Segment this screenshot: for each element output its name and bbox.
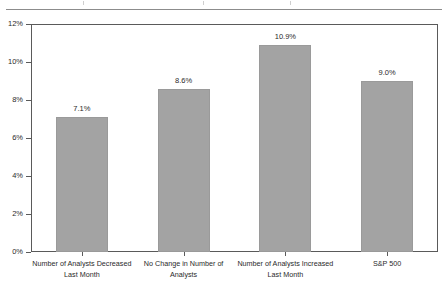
x-axis-category-line: S&P 500	[373, 258, 401, 269]
y-axis-tick-mark	[26, 252, 31, 253]
bar	[56, 117, 108, 252]
x-axis-category-line: Last Month	[237, 269, 333, 280]
x-axis-category-label: S&P 500	[373, 258, 401, 269]
x-axis-tick-mark	[184, 252, 185, 256]
bar-value-label: 9.0%	[379, 69, 396, 77]
bar	[158, 89, 210, 252]
x-axis-category-line: Last Month	[32, 269, 131, 280]
y-axis-tick-label: 0%	[12, 248, 23, 256]
bar-value-label: 8.6%	[175, 77, 192, 85]
x-axis-tick-mark	[82, 252, 83, 256]
x-axis-tick-mark	[285, 252, 286, 256]
scan-artifact-mark	[83, 1, 84, 5]
x-axis-category-line: Analysts	[144, 269, 224, 280]
x-axis-tick-mark	[387, 252, 388, 256]
x-axis-category-label: Number of Analysts DecreasedLast Month	[32, 258, 131, 280]
scan-artifact-mark	[203, 1, 204, 5]
y-axis-tick-label: 12%	[8, 20, 23, 28]
y-axis: 0%2%4%6%8%10%12%	[0, 0, 31, 282]
y-axis-tick-label: 8%	[12, 96, 23, 104]
scan-artifact-mark	[290, 1, 291, 5]
header-divider	[6, 9, 442, 10]
x-axis-category-line: No Change in Number of	[144, 258, 224, 269]
bar-value-label: 7.1%	[73, 105, 90, 113]
bar	[361, 81, 413, 252]
y-axis-tick-label: 4%	[12, 172, 23, 180]
x-axis-category-label: No Change in Number ofAnalysts	[144, 258, 224, 280]
x-axis-category-line: Number of Analysts Increased	[237, 258, 333, 269]
bar-chart-figure: 0%2%4%6%8%10%12% 7.1%Number of Analysts …	[0, 0, 448, 282]
bar-value-label: 10.9%	[275, 33, 296, 41]
scan-artifact-row	[0, 0, 448, 9]
y-axis-tick-label: 10%	[8, 58, 23, 66]
bar	[259, 45, 311, 252]
y-axis-tick-label: 2%	[12, 210, 23, 218]
y-axis-tick-label: 6%	[12, 134, 23, 142]
x-axis-category-label: Number of Analysts IncreasedLast Month	[237, 258, 333, 280]
x-axis-category-line: Number of Analysts Decreased	[32, 258, 131, 269]
